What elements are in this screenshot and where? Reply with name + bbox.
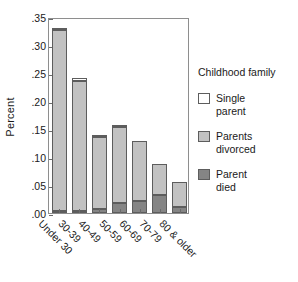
x-tick-mark (59, 209, 60, 213)
bar-50-59[interactable] (112, 125, 127, 213)
x-tick-label: 80 & older (157, 218, 199, 260)
legend-label-line1: Single (216, 92, 246, 105)
legend-title: Childhood family (198, 66, 296, 78)
bar-segment (92, 137, 107, 208)
legend-item-parent-died: Parent died (198, 168, 296, 193)
chart-figure: Percent .00.05.10.15.20.25.30.35 Under 3… (0, 0, 298, 282)
legend-item-single-parent: Single parent (198, 92, 296, 117)
bar-40-49[interactable] (92, 135, 107, 213)
bar-segment (112, 127, 127, 203)
y-tick-label: .35 (31, 13, 46, 23)
bar-segment (72, 81, 87, 210)
plot-inner (49, 19, 188, 213)
bar-70-79[interactable] (152, 164, 167, 213)
light-gray-swatch-icon (198, 131, 210, 142)
y-axis-title: Percent (4, 82, 16, 152)
bar-60-69[interactable] (132, 141, 147, 213)
legend: Childhood family Single parent Parents d… (198, 66, 296, 206)
legend-item-parents-divorced: Parents divorced (198, 130, 296, 155)
legend-label-line2: parent (216, 105, 246, 118)
x-axis-tick-labels: Under 3030-3940-4950-5960-6970-7980 & ol… (48, 214, 208, 282)
bar-segment (52, 28, 67, 30)
legend-label-line2: divorced (216, 143, 256, 156)
legend-item-label: Single parent (216, 92, 246, 117)
y-tick-mark (49, 19, 53, 20)
bar-30-39[interactable] (72, 78, 87, 213)
y-tick-label: .30 (31, 41, 46, 51)
bar-segment (52, 30, 67, 211)
plot-area (48, 18, 189, 214)
y-tick-label: .05 (31, 181, 46, 191)
bar-segment (132, 141, 147, 201)
bar-segment (72, 78, 87, 81)
bar-segment (92, 135, 107, 138)
y-axis-tick-labels: .00.05.10.15.20.25.30.35 (22, 18, 46, 214)
bar-segment (152, 164, 167, 195)
legend-label-line2: died (216, 181, 247, 194)
x-tick-mark (180, 209, 181, 213)
white-swatch-icon (198, 93, 210, 104)
bar-under-30[interactable] (52, 28, 67, 213)
x-tick-mark (79, 209, 80, 213)
x-tick-mark (160, 209, 161, 213)
x-tick-mark (99, 209, 100, 213)
y-tick-label: .25 (31, 69, 46, 79)
legend-label-line1: Parent (216, 168, 247, 181)
bar-segment (112, 125, 127, 127)
bar-segment (172, 182, 187, 207)
legend-item-label: Parents divorced (216, 130, 256, 155)
dark-gray-swatch-icon (198, 169, 210, 180)
y-tick-label: .15 (31, 125, 46, 135)
y-tick-label: .20 (31, 97, 46, 107)
legend-item-label: Parent died (216, 168, 247, 193)
legend-label-line1: Parents (216, 130, 256, 143)
x-tick-mark (120, 209, 121, 213)
y-tick-label: .10 (31, 153, 46, 163)
x-tick-mark (140, 209, 141, 213)
